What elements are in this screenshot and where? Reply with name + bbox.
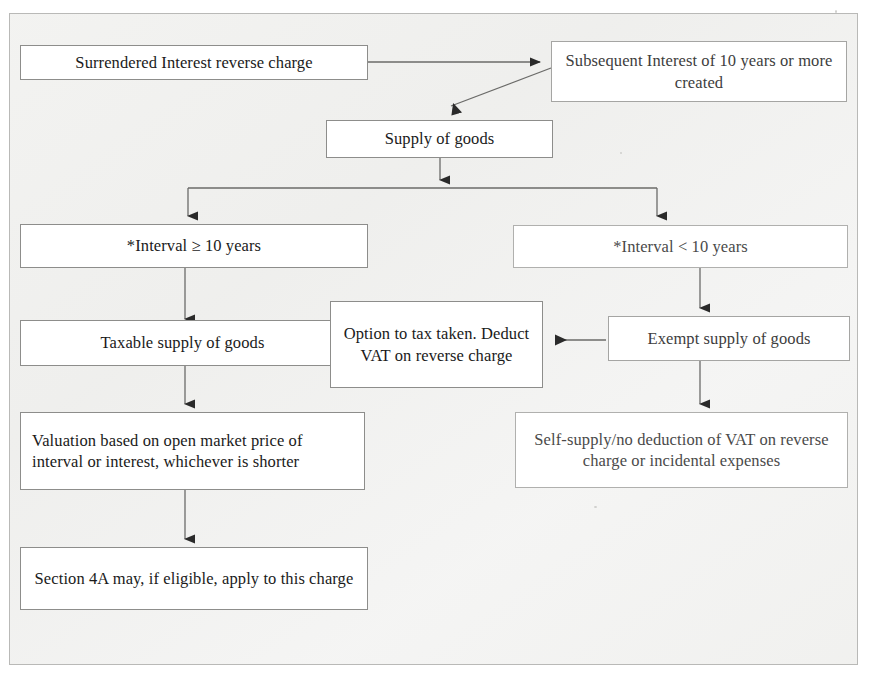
node-label: Valuation based on open market price of … [32,430,356,472]
node-option-to-tax-taken: Option to tax taken. Deduct VAT on rever… [330,301,543,388]
node-label: Surrendered Interest reverse charge [29,52,359,73]
node-interval-ge-10-years: *Interval ≥ 10 years [20,224,368,268]
node-label: Taxable supply of goods [29,332,336,353]
node-section-4a-charge: Section 4A may, if eligible, apply to th… [20,547,368,610]
scan-speck [594,506,597,508]
node-valuation-open-market-price: Valuation based on open market price of … [20,412,365,490]
node-label: Option to tax taken. Deduct VAT on rever… [339,323,534,365]
edge-subsequent-to-supply [451,68,551,106]
scan-speck [620,152,622,154]
node-taxable-supply-of-goods: Taxable supply of goods [20,320,345,366]
node-supply-of-goods: Supply of goods [326,120,553,158]
node-subsequent-interest: Subsequent Interest of 10 years or more … [551,41,847,102]
flowchart-page: Surrendered Interest reverse charge Subs… [0,0,873,682]
node-label: Subsequent Interest of 10 years or more … [560,50,838,92]
node-label: Section 4A may, if eligible, apply to th… [29,568,359,589]
node-exempt-supply-of-goods: Exempt supply of goods [608,316,850,361]
node-label: Exempt supply of goods [617,328,841,349]
node-label: Supply of goods [335,128,544,149]
scan-speck [835,10,837,13]
node-label: Self-supply/no deduction of VAT on rever… [524,429,839,471]
node-label: *Interval ≥ 10 years [29,235,359,256]
node-surrendered-interest: Surrendered Interest reverse charge [20,45,368,80]
node-label: *Interval < 10 years [522,236,839,257]
node-interval-lt-10-years: *Interval < 10 years [513,225,848,268]
node-self-supply-no-deduction: Self-supply/no deduction of VAT on rever… [515,412,848,488]
